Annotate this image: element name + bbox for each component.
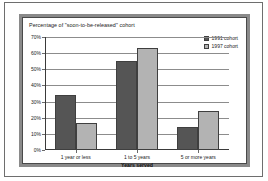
bar[interactable] xyxy=(198,111,219,150)
page-frame: Percentage of "soon-to-be-released" coho… xyxy=(4,2,263,177)
x-axis-tick xyxy=(137,150,138,153)
x-axis-category-label: 5 or more years xyxy=(168,154,229,160)
chart-figure: Percentage of "soon-to-be-released" coho… xyxy=(22,17,247,164)
bar[interactable] xyxy=(137,48,158,150)
bar[interactable] xyxy=(177,127,198,150)
x-axis-title: Years served xyxy=(45,162,229,168)
bar-group xyxy=(106,37,167,150)
x-axis-category-labels: 1 year or less1 to 5 years5 or more year… xyxy=(45,154,229,160)
x-axis-tick xyxy=(198,150,199,153)
bar[interactable] xyxy=(76,123,97,150)
y-axis-tick-label: 70% xyxy=(31,34,41,40)
chart-bezel: Percentage of "soon-to-be-released" coho… xyxy=(19,14,250,167)
x-axis-category-label: 1 year or less xyxy=(45,154,106,160)
x-axis-tick xyxy=(76,150,77,153)
y-axis-tick-label: 50% xyxy=(31,66,41,72)
bar-series-container xyxy=(45,37,229,150)
y-axis-tick-label: 0% xyxy=(34,147,41,153)
x-axis-category-label: 1 to 5 years xyxy=(106,154,167,160)
y-axis-tick-label: 40% xyxy=(31,82,41,88)
chart-title: Percentage of "soon-to-be-released" coho… xyxy=(29,22,135,28)
bar[interactable] xyxy=(55,95,76,150)
bar-group xyxy=(168,37,229,150)
y-axis-tick xyxy=(42,150,45,151)
y-axis-tick-label: 10% xyxy=(31,131,41,137)
bar[interactable] xyxy=(116,61,137,150)
y-axis-tick-label: 20% xyxy=(31,115,41,121)
plot-area: 0%10%20%30%40%50%60%70% xyxy=(45,37,229,150)
bar-group xyxy=(45,37,106,150)
y-axis-tick-label: 30% xyxy=(31,99,41,105)
y-axis-tick-label: 60% xyxy=(31,50,41,56)
